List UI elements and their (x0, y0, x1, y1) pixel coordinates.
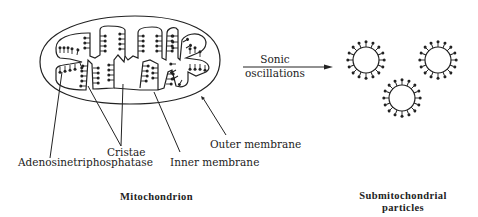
outer-membrane-shape (40, 16, 220, 104)
particle-3 (382, 78, 421, 117)
atpase-leader (50, 72, 62, 158)
cristae-leader-2 (121, 84, 123, 146)
inner-membrane-right (114, 27, 209, 90)
arrow-label-oscillations: oscillations (245, 67, 305, 79)
inner-membrane-shape (56, 26, 125, 90)
mitochondria-diagram: Cristae Adenosinetriphosphatase Inner me… (0, 0, 478, 217)
cristae-leader-1 (88, 86, 121, 146)
particle-2 (418, 40, 457, 79)
arrow-label-sonic: Sonic (260, 53, 290, 65)
label-inner-membrane: Inner membrane (170, 156, 259, 168)
caption-particles-line1: Submitochondrial (359, 190, 447, 201)
particle-1 (346, 40, 385, 79)
label-atpase: Adenosinetriphosphatase (17, 156, 153, 168)
atpase-particles (59, 33, 207, 88)
sonic-arrow: Sonic oscillations (243, 53, 333, 79)
label-outer-membrane: Outer membrane (210, 138, 301, 150)
outer-membrane-leader (203, 98, 226, 135)
caption-mitochondrion: Mitochondrion (120, 191, 193, 202)
arrowhead-icon (324, 65, 333, 70)
caption-particles-line2: particles (382, 202, 424, 213)
